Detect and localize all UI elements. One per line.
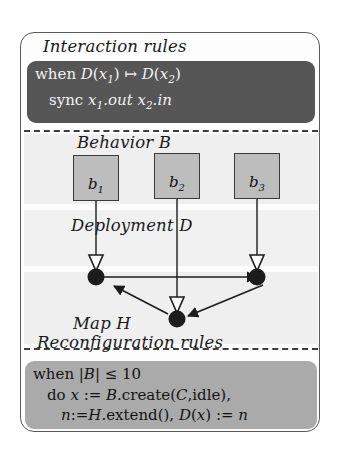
reconfiguration-rule-line-when: when |B| ≤ 10: [33, 364, 309, 385]
interaction-rules-box: when D(x1) ↦ D(x2) sync x1.out x2.in: [27, 61, 315, 123]
section-caption-deployment: Deployment D: [71, 216, 193, 235]
reconfiguration-rule-line-do: do x := B.create(C,idle),: [33, 385, 309, 406]
section-caption-map: Map H: [73, 314, 131, 333]
behavior-box-label-b2: b2: [155, 173, 199, 193]
figure-frame: Interaction rules when D(x1) ↦ D(x2) syn…: [20, 32, 320, 432]
reconfiguration-rules-box: when |B| ≤ 10 do x := B.create(C,idle), …: [25, 361, 317, 429]
behavior-box-b2[interactable]: b2: [154, 153, 200, 199]
separator-top: [24, 130, 318, 132]
section-caption-behavior: Behavior B: [77, 133, 171, 152]
reconfiguration-rule-line-extend: n:=H.extend(), D(x) := n: [33, 405, 309, 426]
section-caption-interaction-rules: Interaction rules: [43, 37, 187, 56]
interaction-rule-line-sync: sync x1.out x2.in: [35, 90, 307, 116]
interaction-rule-line-when: when D(x1) ↦ D(x2): [35, 64, 307, 90]
behavior-box-b3[interactable]: b3: [234, 153, 280, 199]
section-caption-reconfiguration-rules: Reconfiguration rules: [37, 333, 223, 352]
behavior-box-label-b1: b1: [74, 175, 118, 195]
behavior-box-b1[interactable]: b1: [73, 155, 119, 201]
behavior-box-label-b3: b3: [235, 173, 279, 193]
